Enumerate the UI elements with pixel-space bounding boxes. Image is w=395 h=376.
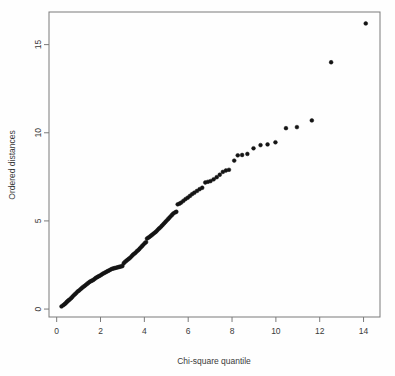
x-tick-label: 4 bbox=[142, 326, 147, 336]
qq-plot-figure: 02468101214 051015 Chi-square quantile O… bbox=[0, 0, 395, 376]
scatter-point bbox=[310, 119, 314, 123]
scatter-point bbox=[266, 143, 270, 147]
y-tick-label: 10 bbox=[33, 128, 43, 138]
scatter-point bbox=[236, 153, 240, 157]
scatter-point bbox=[364, 22, 368, 26]
scatter-point bbox=[295, 125, 299, 129]
scatter-point bbox=[245, 152, 249, 156]
figure-background bbox=[0, 0, 395, 376]
y-tick-label: 0 bbox=[33, 306, 43, 311]
scatter-point bbox=[227, 168, 231, 172]
x-tick-label: 0 bbox=[54, 326, 59, 336]
x-tick-label: 8 bbox=[230, 326, 235, 336]
scatter-point bbox=[252, 146, 256, 150]
x-tick-label: 14 bbox=[359, 326, 369, 336]
scatter-point bbox=[200, 186, 204, 190]
chart-canvas: 02468101214 051015 Chi-square quantile O… bbox=[0, 0, 395, 376]
scatter-point bbox=[329, 60, 333, 64]
x-tick-label: 10 bbox=[271, 326, 281, 336]
y-tick-label: 15 bbox=[33, 40, 43, 50]
scatter-point bbox=[218, 173, 222, 177]
y-tick-label: 5 bbox=[33, 218, 43, 223]
scatter-point bbox=[259, 143, 263, 147]
scatter-point bbox=[274, 140, 278, 144]
scatter-point bbox=[174, 210, 178, 214]
scatter-point bbox=[240, 153, 244, 157]
x-axis-title: Chi-square quantile bbox=[177, 356, 251, 366]
scatter-point bbox=[232, 159, 236, 163]
x-tick-label: 12 bbox=[315, 326, 325, 336]
scatter-point bbox=[284, 126, 288, 130]
x-tick-label: 2 bbox=[98, 326, 103, 336]
y-axis-title: Ordered distances bbox=[7, 130, 17, 199]
scatter-point bbox=[144, 240, 148, 244]
x-tick-label: 6 bbox=[186, 326, 191, 336]
